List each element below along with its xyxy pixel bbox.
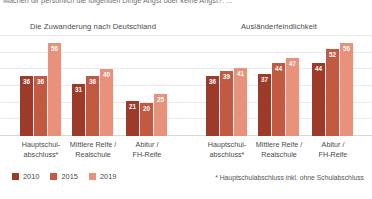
bar-value-label: 36 [34, 78, 47, 85]
bar-value-label: 44 [312, 65, 325, 72]
category-label-line: Mittlere Reife / [65, 140, 121, 150]
category-label-line: abschluss* [13, 150, 69, 160]
category-labels-left: Hauptschul-abschluss*Mittlere Reife /Rea… [14, 140, 179, 164]
legend-label: 2010 [23, 172, 39, 181]
bar-group: 313640 [72, 69, 113, 136]
category-label-line: Abitur / [119, 140, 175, 150]
chart-panel-zuwanderung: Die Zuwanderung nach Deutschland 3636563… [0, 9, 186, 167]
bar-2019-3[interactable]: 56 [340, 43, 353, 136]
bar-value-label: 31 [72, 86, 85, 93]
bar-2010-2[interactable]: 37 [258, 74, 271, 136]
category-label-line: FH-Reife [119, 150, 175, 160]
bar-group: 212025 [126, 94, 167, 136]
category-label-line: abschluss* [199, 150, 255, 160]
category-label-line: Hauptschul- [199, 140, 255, 150]
category-label-line: Realschule [65, 150, 121, 160]
bar-2010-1[interactable]: 36 [206, 76, 219, 136]
bar-2015-2[interactable]: 36 [86, 76, 99, 136]
legend-label: 2015 [61, 172, 77, 181]
bar-value-label: 36 [206, 78, 219, 85]
bar-value-label: 37 [258, 76, 271, 83]
chart-title-right: Ausländerfeindlichkeit [186, 22, 372, 31]
bar-2015-3[interactable]: 20 [140, 103, 153, 136]
bar-group: 445256 [312, 43, 353, 136]
bar-2010-1[interactable]: 36 [20, 76, 33, 136]
chart-title-left: Die Zuwanderung nach Deutschland [0, 22, 186, 31]
bar-value-label: 44 [272, 65, 285, 72]
category-label-line: Hauptschul- [13, 140, 69, 150]
survey-question-text: Machen dir persönlich die folgenden Ding… [3, 0, 232, 5]
bar-value-label: 56 [48, 45, 61, 52]
legend-swatch-icon [50, 173, 57, 180]
category-label-3: Abitur /FH-Reife [119, 140, 175, 159]
bar-value-label: 21 [126, 103, 139, 110]
legend-swatch-icon [12, 173, 19, 180]
legend: 201020152019 [12, 172, 116, 181]
category-label-line: Realschule [251, 150, 307, 160]
category-label-3: Abitur /FH-Reife [305, 140, 361, 159]
category-label-1: Hauptschul-abschluss* [199, 140, 255, 159]
category-label-line: Abitur / [305, 140, 361, 150]
gridline [0, 35, 186, 36]
gridline [186, 35, 372, 36]
bar-value-label: 20 [140, 105, 153, 112]
category-label-2: Mittlere Reife /Realschule [251, 140, 307, 159]
bar-2015-3[interactable]: 52 [326, 49, 339, 136]
bar-2010-3[interactable]: 21 [126, 101, 139, 136]
category-label-line: FH-Reife [305, 150, 361, 160]
bar-2019-1[interactable]: 56 [48, 43, 61, 136]
bar-value-label: 41 [234, 70, 247, 77]
bar-2010-2[interactable]: 31 [72, 84, 85, 136]
bar-2015-1[interactable]: 36 [34, 76, 47, 136]
bar-2019-2[interactable]: 40 [100, 69, 113, 136]
chart-panel-auslaenderfeindlichkeit: Ausländerfeindlichkeit 36394137444744525… [186, 9, 372, 167]
category-label-2: Mittlere Reife /Realschule [65, 140, 121, 159]
bar-value-label: 52 [326, 51, 339, 58]
bar-group: 363941 [206, 68, 247, 136]
bar-value-label: 56 [340, 45, 353, 52]
bar-value-label: 39 [220, 73, 233, 80]
bar-value-label: 25 [154, 96, 167, 103]
category-label-line: Mittlere Reife / [251, 140, 307, 150]
bar-value-label: 36 [86, 78, 99, 85]
bar-2015-1[interactable]: 39 [220, 71, 233, 136]
legend-label: 2019 [100, 172, 116, 181]
bar-2010-3[interactable]: 44 [312, 63, 325, 136]
legend-swatch-icon [89, 173, 96, 180]
bar-2015-2[interactable]: 44 [272, 63, 285, 136]
bar-value-label: 47 [286, 60, 299, 67]
plot-area-left: 363656313640212025 [14, 36, 179, 136]
bar-2019-3[interactable]: 25 [154, 94, 167, 136]
bar-value-label: 36 [20, 78, 33, 85]
legend-item-2015[interactable]: 2015 [50, 172, 77, 181]
bar-group: 363656 [20, 43, 61, 136]
bar-2019-2[interactable]: 47 [286, 58, 299, 136]
survey-question-strip: Machen dir persönlich die folgenden Ding… [0, 0, 372, 9]
plot-area-right: 363941374447445256 [200, 36, 365, 136]
legend-item-2019[interactable]: 2019 [89, 172, 116, 181]
category-labels-right: Hauptschul-abschluss*Mittlere Reife /Rea… [200, 140, 365, 164]
bar-group: 374447 [258, 58, 299, 136]
charts-row: Die Zuwanderung nach Deutschland 3636563… [0, 9, 372, 167]
footnote: * Hauptschulabschluss inkl. ohne Schulab… [215, 174, 364, 181]
bar-2019-1[interactable]: 41 [234, 68, 247, 136]
legend-item-2010[interactable]: 2010 [12, 172, 39, 181]
bar-value-label: 40 [100, 71, 113, 78]
category-label-1: Hauptschul-abschluss* [13, 140, 69, 159]
